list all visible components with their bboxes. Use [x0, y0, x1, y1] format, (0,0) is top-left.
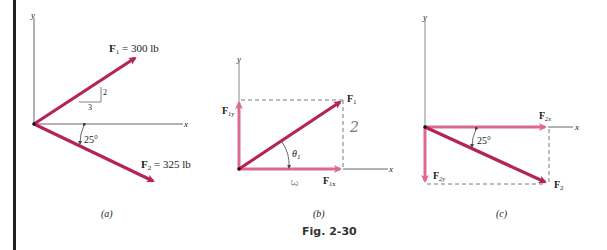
origin-point	[32, 122, 36, 126]
f2x-label: F2x	[539, 110, 551, 122]
handwritten-rise: 2	[349, 119, 359, 135]
slope-run-label: 3	[88, 103, 92, 112]
x-axis-label: x	[388, 164, 393, 174]
force-f2-arrow	[34, 124, 153, 181]
y-axis-label: y	[236, 54, 241, 64]
f1y-label: F1y	[222, 105, 235, 117]
x-axis-label: x	[574, 122, 579, 132]
theta-label: θ1	[292, 148, 300, 161]
f2-label: F2	[554, 179, 564, 192]
x-axis-label: x	[183, 119, 188, 129]
y-axis-label: y	[422, 12, 427, 22]
slope-rise-label: 2	[103, 88, 107, 97]
panel-label: (b)	[313, 208, 325, 220]
origin-point	[237, 167, 241, 171]
force-f1-arrow	[239, 102, 340, 169]
force-f1-arrow	[34, 58, 135, 124]
panel-b: y x θ1 2 3 F1 F1y F1x (b)	[222, 54, 393, 220]
page-border-bar	[13, 0, 16, 250]
handwritten-run: 3	[289, 180, 300, 186]
angle-arc	[472, 129, 476, 146]
f1x-label: F1x	[323, 175, 336, 187]
panel-label: (a)	[101, 208, 113, 220]
panel-c: y x 25° F2x F2y F2 (c)	[422, 12, 579, 220]
force-diagram-figure: y x 2 3 25° F1 = 300 lb F2 = 325 lb (a) …	[0, 0, 607, 250]
f2y-label: F2y	[433, 170, 445, 182]
y-axis-label: y	[30, 10, 35, 20]
f1-label: F1 = 300 lb	[109, 42, 159, 56]
origin-point	[423, 125, 427, 129]
theta-arc	[282, 142, 289, 167]
f1-label: F1	[347, 93, 357, 106]
f2-label: F2 = 325 lb	[141, 158, 191, 172]
figure-caption: Fig. 2-30	[302, 225, 357, 238]
panel-a: y x 2 3 25° F1 = 300 lb F2 = 325 lb (a)	[30, 10, 191, 220]
angle-label: 25°	[84, 134, 98, 145]
panel-label: (c)	[496, 208, 508, 220]
angle-label: 25°	[477, 135, 491, 146]
